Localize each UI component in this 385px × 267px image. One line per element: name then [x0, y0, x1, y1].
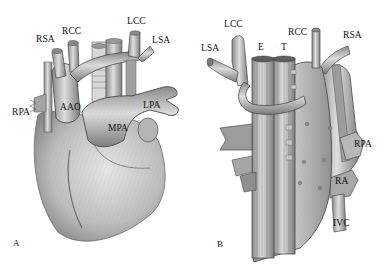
label-b-rpa: RPA — [354, 140, 372, 150]
label-b-ivc: IVC — [333, 219, 350, 229]
label-a-aao: AAO — [60, 103, 81, 113]
label-b-rsa: RSA — [343, 31, 362, 41]
label-b-ra: RA — [335, 177, 348, 187]
label-b-rcc: RCC — [288, 28, 307, 38]
illustration — [0, 0, 385, 267]
label-b-trachea: T — [281, 43, 287, 53]
label-a-rcc: RCC — [62, 27, 81, 37]
label-a-lpa: LPA — [143, 101, 160, 111]
panel-a-art — [30, 31, 178, 241]
label-b-lsa: LSA — [201, 44, 219, 54]
panel-label-a: A — [13, 239, 20, 248]
label-a-lsa: LSA — [152, 36, 170, 46]
label-b-lcc: LCC — [224, 20, 243, 30]
panel-label-b: B — [217, 240, 223, 249]
esophagus-shape — [252, 58, 274, 258]
label-a-lcc: LCC — [127, 17, 146, 27]
label-a-mpa: MPA — [108, 124, 128, 134]
label-a-rsa: RSA — [36, 35, 55, 45]
anatomical-figure: RSA RCC LCC LSA RPA AAO LPA MPA A LCC LS… — [0, 0, 385, 267]
label-a-rpa: RPA — [12, 108, 30, 118]
label-b-esophagus: E — [258, 43, 264, 53]
